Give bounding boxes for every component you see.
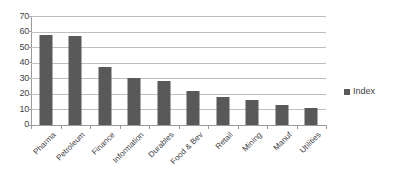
bar-slot xyxy=(208,16,238,125)
x-tick-mark xyxy=(267,125,268,129)
y-tick-label-10: 10 xyxy=(3,105,29,114)
x-axis-label: Retail xyxy=(214,131,234,151)
bar-chart: 70 60 50 40 30 20 10 0 PharmaPetroleumFi… xyxy=(0,0,394,185)
legend-swatch-index xyxy=(344,89,350,95)
x-tick-mark xyxy=(297,125,298,129)
x-axis-label: Manuf xyxy=(272,131,293,152)
bar xyxy=(98,67,111,125)
x-axis-label: Pharma xyxy=(32,131,57,156)
x-tick-mark xyxy=(31,125,32,129)
x-tick-mark xyxy=(120,125,121,129)
bar xyxy=(305,108,318,125)
bar-slot xyxy=(297,16,327,125)
bar-slot xyxy=(120,16,150,125)
bar-slot xyxy=(179,16,209,125)
legend: Index xyxy=(344,87,375,96)
x-tick-mark xyxy=(238,125,239,129)
x-tick-mark xyxy=(61,125,62,129)
x-axis-label: Petroleum xyxy=(55,131,86,162)
bar-slot xyxy=(149,16,179,125)
x-tick-mark xyxy=(326,125,327,129)
x-tick-mark xyxy=(208,125,209,129)
y-tick-label-0: 0 xyxy=(3,120,29,129)
bar xyxy=(275,105,288,125)
bar-slot xyxy=(61,16,91,125)
bar-slot xyxy=(31,16,61,125)
y-tick-label-60: 60 xyxy=(3,27,29,36)
legend-label-index: Index xyxy=(353,87,375,96)
bar xyxy=(187,91,200,125)
bar-slot xyxy=(267,16,297,125)
bar xyxy=(157,81,170,125)
y-tick-label-70: 70 xyxy=(3,12,29,21)
x-tick-mark xyxy=(149,125,150,129)
bar xyxy=(128,78,141,125)
bar xyxy=(246,100,259,125)
x-tick-mark xyxy=(179,125,180,129)
x-axis-label: Durables xyxy=(147,131,175,159)
y-tick-label-30: 30 xyxy=(3,74,29,83)
y-axis: 70 60 50 40 30 20 10 0 xyxy=(0,0,29,185)
bar-slot xyxy=(238,16,268,125)
y-tick-label-40: 40 xyxy=(3,58,29,67)
bar xyxy=(216,97,229,125)
plot-area xyxy=(31,16,326,125)
bar-slot xyxy=(90,16,120,125)
x-axis-label: Finance xyxy=(91,131,117,157)
x-axis-label: Utilities xyxy=(299,131,323,155)
y-tick-label-50: 50 xyxy=(3,43,29,52)
x-axis-label: Mining xyxy=(242,131,264,153)
bar xyxy=(69,36,82,125)
x-tick-mark xyxy=(90,125,91,129)
bar xyxy=(39,35,52,125)
y-tick-label-20: 20 xyxy=(3,89,29,98)
